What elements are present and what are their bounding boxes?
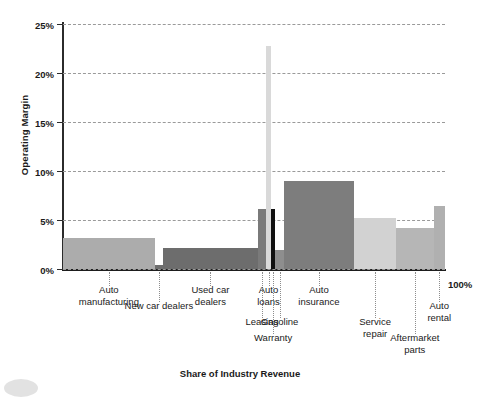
plot-area: 0%5%10%15%20%25% [63, 24, 445, 269]
bar-auto-rental [434, 206, 445, 269]
y-tick-label-10: 10% [35, 167, 54, 178]
bar-aftermarket-parts [396, 228, 434, 269]
label-auto-rental: Auto rental [389, 300, 480, 323]
y-tickmark [57, 73, 63, 74]
bar-gasoline [275, 250, 284, 269]
y-tick-label-25: 25% [35, 20, 54, 31]
y-tickmark [57, 220, 63, 221]
bar-auto-manufacturing [63, 238, 155, 269]
corner-decoration [4, 379, 38, 397]
y-tickmark [57, 122, 63, 123]
bar-auto-insurance [284, 181, 354, 269]
y-tick-label-0: 0% [40, 265, 54, 276]
y-tickmark [57, 171, 63, 172]
bar-used-car-dealers [163, 248, 258, 269]
y-tick-label-5: 5% [40, 216, 54, 227]
label-aftermarket-parts: Aftermarket parts [365, 332, 465, 355]
y-axis-title: Operating Margin [19, 95, 30, 175]
leader-line-auto-rental [439, 272, 440, 302]
gridline-20: 20% [63, 73, 445, 74]
bar-new-car-dealers [155, 265, 163, 269]
y-tick-label-15: 15% [35, 118, 54, 129]
bar-leasing [258, 209, 266, 269]
label-auto-insurance: Auto insurance [269, 284, 369, 307]
gridline-10: 10% [63, 171, 445, 172]
y-axis-title-wrap: Operating Margin [18, 60, 32, 210]
y-tick-label-20: 20% [35, 69, 54, 80]
gridline-15: 15% [63, 122, 445, 123]
x-axis-end-label: 100% [448, 279, 472, 290]
leader-line-service-repair [375, 272, 376, 318]
label-gasoline: Gasoline [230, 316, 330, 328]
bar-service-repair [354, 218, 396, 269]
gridline-0: 0% [63, 269, 445, 270]
y-tickmark [57, 24, 63, 25]
y-tickmark [57, 269, 63, 270]
x-axis-title: Share of Industry Revenue [0, 368, 480, 379]
label-warranty: Warranty [223, 332, 323, 344]
gridline-25: 25% [63, 24, 445, 25]
